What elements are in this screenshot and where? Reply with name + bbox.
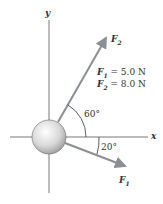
f2-label: F2 [111, 35, 122, 46]
angle-label-20: 20° [101, 143, 117, 152]
f1-label: F1 [119, 176, 130, 187]
legend-f2: F2 = 8.0 N [97, 80, 146, 91]
angle-label-60: 60° [84, 110, 100, 119]
x-axis-label: x [151, 132, 156, 141]
particle-ball [32, 120, 66, 154]
angle-arc-20 [97, 137, 99, 154]
force-diagram [0, 0, 163, 204]
legend-f1: F1 = 5.0 N [97, 68, 146, 79]
y-axis-label: y [45, 9, 50, 18]
